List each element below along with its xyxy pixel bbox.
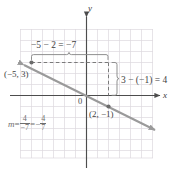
- slope-denominator-2: 7: [40, 123, 46, 132]
- point-label-right: (2, −1): [89, 110, 114, 119]
- slope-fraction-2: 47: [40, 115, 46, 133]
- dashed-guides: [32, 63, 109, 96]
- slope-expression: m=4−7=−47: [8, 115, 46, 133]
- slope-numerator-2: 4: [40, 115, 46, 123]
- rise-annotation: 3 − (−1) = 4: [121, 76, 167, 86]
- point-marker-left: [29, 60, 33, 64]
- run-annotation: −5 − 2 = −7: [31, 41, 76, 51]
- slope-numerator-1: 4: [20, 115, 31, 123]
- point-label-left: (−5, 3): [4, 70, 29, 79]
- run-brace: [32, 52, 109, 59]
- coordinate-plane-svg: [0, 0, 177, 172]
- origin-label: 0: [78, 97, 82, 106]
- slope-fraction-1: 4−7: [20, 115, 31, 133]
- point-marker-right: [106, 104, 110, 108]
- rise-brace: [112, 63, 119, 96]
- slope-diagram-figure: y x 0 −5 − 2 = −7 3 − (−1) = 4 (−5, 3) (…: [0, 0, 177, 172]
- slope-denominator-1: −7: [20, 123, 31, 132]
- x-axis-label: x: [163, 91, 167, 100]
- y-axis-label: y: [88, 4, 92, 13]
